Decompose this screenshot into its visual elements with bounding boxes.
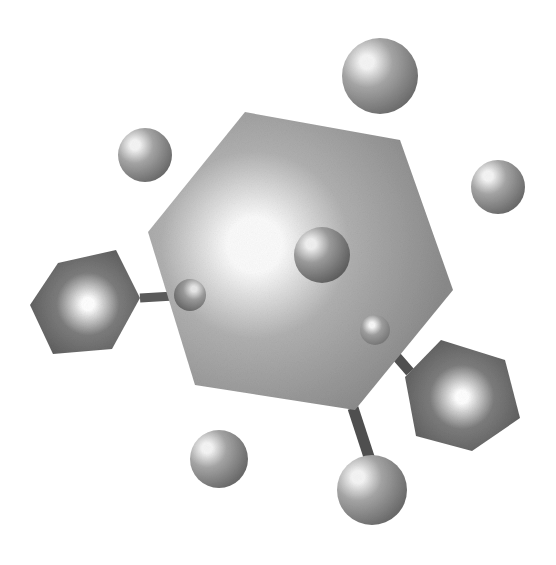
atom-sphere-center [294,227,350,283]
molecule-illustration-canvas [0,0,556,565]
atom-sphere-small-right [360,315,390,345]
atom-sphere-bottom-left [190,430,248,488]
molecule-diagram [0,0,556,565]
atom-sphere-small-left [174,279,206,311]
atom-sphere-right [471,160,525,214]
atom-sphere-upper-left [118,128,172,182]
atom-sphere-bottom-right [337,455,407,525]
atom-sphere-top [342,38,418,114]
